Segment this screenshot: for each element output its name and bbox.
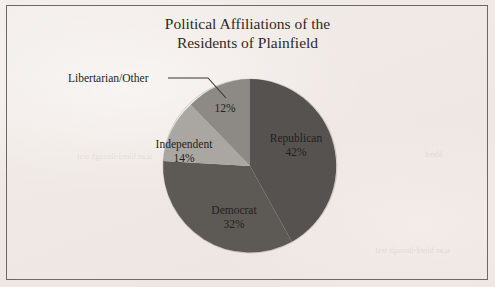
pie-label-independent: Independent 14%: [138, 138, 230, 165]
pie-value-libertarian-other: 12%: [205, 102, 245, 114]
pie-label-republican-name: Republican: [256, 132, 336, 146]
pie-label-democrat: Democrat 32%: [190, 204, 278, 231]
pie-chart-svg: [0, 0, 495, 287]
pie-chart: Libertarian/Other 12% Republican 42% Dem…: [0, 0, 495, 287]
pie-value-independent: 14%: [138, 152, 230, 166]
pie-value-democrat: 32%: [190, 218, 278, 232]
pie-label-libertarian-other: Libertarian/Other: [68, 72, 148, 86]
pie-label-democrat-name: Democrat: [190, 204, 278, 218]
figure-page: scan bleed-through text bleed scan bleed…: [0, 0, 495, 287]
pie-label-independent-name: Independent: [138, 138, 230, 152]
pie-value-republican: 42%: [256, 146, 336, 160]
pie-label-republican: Republican 42%: [256, 132, 336, 159]
